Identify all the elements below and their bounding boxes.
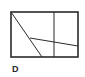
diagonal-line xyxy=(11,12,42,57)
figure-label: D xyxy=(12,64,19,74)
outer-rectangle xyxy=(11,12,78,57)
diagram-canvas: D xyxy=(0,0,85,77)
